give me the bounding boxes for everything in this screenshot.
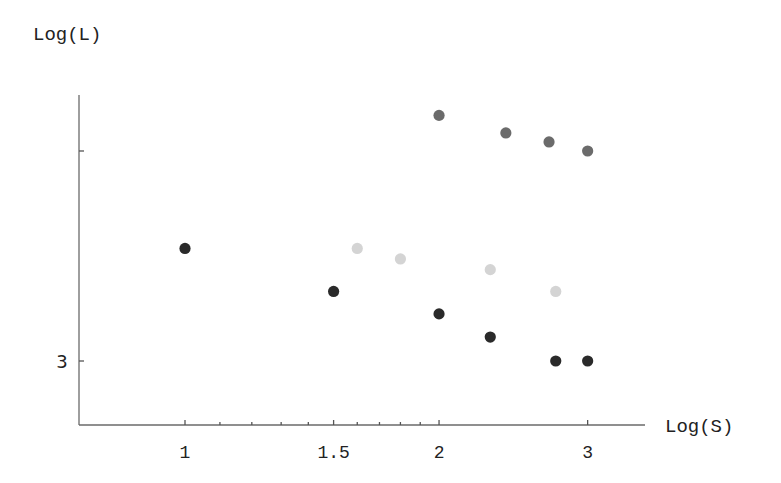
x-tick-label: 1.5	[317, 443, 349, 463]
data-points	[179, 110, 593, 367]
data-point-dark	[485, 331, 496, 342]
data-point-medium-gray	[582, 145, 593, 156]
data-point-light-gray	[550, 286, 561, 297]
data-point-dark	[328, 286, 339, 297]
data-point-light-gray	[352, 243, 363, 254]
ticks: 11.5233	[56, 151, 593, 463]
data-point-dark	[582, 355, 593, 366]
x-tick-label: 1	[180, 443, 191, 463]
data-point-dark	[433, 308, 444, 319]
y-tick-label: 3	[56, 351, 67, 372]
x-tick-label: 2	[434, 443, 445, 463]
axes	[79, 95, 645, 425]
scatter-chart: 11.5233 Log(L) Log(S)	[0, 0, 781, 483]
x-tick-label: 3	[582, 443, 593, 463]
data-point-light-gray	[395, 253, 406, 264]
data-point-dark	[550, 355, 561, 366]
data-point-medium-gray	[433, 110, 444, 121]
data-point-light-gray	[485, 264, 496, 275]
data-point-medium-gray	[500, 127, 511, 138]
x-axis-title: Log(S)	[665, 416, 733, 438]
data-point-dark	[179, 243, 190, 254]
y-axis-title: Log(L)	[33, 24, 101, 46]
data-point-medium-gray	[543, 136, 554, 147]
